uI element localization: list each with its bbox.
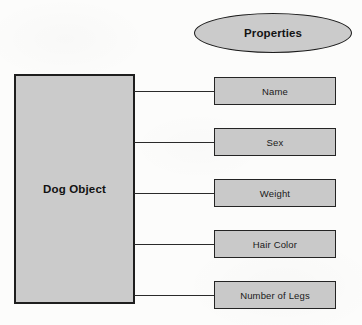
dog-object-rectangle: Dog Object (14, 74, 135, 304)
property-box-weight: Weight (214, 179, 336, 207)
property-label: Hair Color (253, 239, 297, 250)
property-box-name: Name (214, 77, 336, 105)
property-box-sex: Sex (214, 128, 336, 156)
property-box-hair-color: Hair Color (214, 230, 336, 258)
property-label: Weight (260, 188, 290, 199)
property-label: Number of Legs (240, 290, 310, 301)
property-label: Name (262, 86, 288, 97)
property-box-number-of-legs: Number of Legs (214, 281, 336, 309)
connector-line-number-of-legs (134, 295, 215, 296)
properties-ellipse: Properties (194, 13, 352, 53)
connector-line-name (134, 91, 215, 92)
connector-line-sex (134, 142, 215, 143)
property-label: Sex (267, 137, 284, 148)
properties-ellipse-label: Properties (244, 27, 302, 39)
dog-object-label: Dog Object (43, 183, 106, 195)
diagram-canvas: Properties Dog Object Name Sex Weight Ha… (0, 0, 362, 325)
connector-line-hair-color (134, 244, 215, 245)
connector-line-weight (134, 193, 215, 194)
